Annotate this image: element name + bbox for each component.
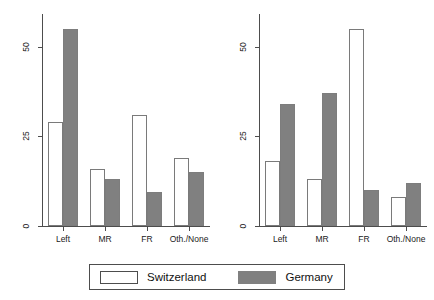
bar-germany [406, 183, 421, 226]
panels-container: Hard, tiring work 02550LeftMRFROth./None… [0, 0, 434, 252]
y-axis-line [42, 14, 43, 227]
x-axis-tick [105, 227, 106, 231]
bar-switzerland [132, 115, 147, 226]
x-axis-tick [364, 227, 365, 231]
y-axis-tick [38, 47, 42, 48]
bar-germany [147, 192, 162, 226]
x-axis-line [42, 226, 210, 227]
bar-germany [280, 104, 295, 226]
x-axis-tick [322, 227, 323, 231]
plot-area-left: 02550LeftMRFROth./None [0, 0, 217, 252]
bar-germany [322, 93, 337, 226]
legend-swatch-germany-icon [238, 271, 276, 284]
x-axis-tick [147, 227, 148, 231]
legend-swatch-switzerland-icon [100, 271, 138, 284]
y-axis-tick-label: 50 [237, 37, 249, 57]
x-axis-tick-label: Oth./None [376, 234, 434, 244]
x-axis-line [259, 226, 427, 227]
panel-hard-tiring-work: Hard, tiring work 02550LeftMRFROth./None [0, 0, 217, 252]
legend: Switzerland Germany [89, 264, 345, 290]
bar-switzerland [349, 29, 364, 226]
y-axis-tick [38, 136, 42, 137]
bar-switzerland [265, 161, 280, 226]
y-axis-tick-label: 0 [237, 216, 249, 236]
x-axis-tick [406, 227, 407, 231]
x-axis-tick [280, 227, 281, 231]
y-axis-tick-label: 25 [20, 126, 32, 146]
bar-switzerland [391, 197, 406, 226]
bar-germany [364, 190, 379, 226]
legend-entry-germany: Germany [238, 265, 332, 289]
bar-germany [189, 172, 204, 226]
legend-label-switzerland: Switzerland [147, 271, 206, 283]
plot-area-right: 02550LeftMRFROth./None [217, 0, 434, 252]
bar-germany [105, 179, 120, 226]
bar-switzerland [307, 179, 322, 226]
bar-switzerland [174, 158, 189, 226]
x-axis-tick [63, 227, 64, 231]
y-axis-tick [255, 47, 259, 48]
legend-label-germany: Germany [285, 271, 332, 283]
x-axis-tick-label: Oth./None [159, 234, 219, 244]
y-axis-tick-label: 25 [237, 126, 249, 146]
bar-switzerland [90, 169, 105, 226]
panel-rural: Rural 02550LeftMRFROth./None [217, 0, 434, 252]
bar-chart-figure: Hard, tiring work 02550LeftMRFROth./None… [0, 0, 434, 300]
y-axis-line [259, 14, 260, 227]
y-axis-tick-label: 0 [20, 216, 32, 236]
bar-switzerland [48, 122, 63, 226]
y-axis-tick [255, 136, 259, 137]
legend-entry-switzerland: Switzerland [100, 265, 206, 289]
x-axis-tick [189, 227, 190, 231]
bar-germany [63, 29, 78, 226]
y-axis-tick-label: 50 [20, 37, 32, 57]
